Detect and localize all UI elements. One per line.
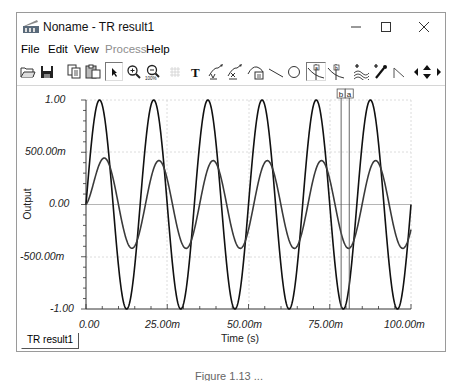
y-axis-title: Output	[21, 188, 33, 220]
tab-tr-result1[interactable]: TR result1	[21, 333, 79, 349]
y-tick-label: -500.00m	[20, 250, 64, 262]
svg-text:a: a	[347, 90, 352, 99]
y-tick-label: 500.00m	[25, 145, 66, 157]
chart-canvas[interactable]: b a	[17, 13, 447, 333]
app-window: Noname - TR result1 File Edit View Proce…	[16, 12, 446, 352]
tab-bar: TR result1	[17, 333, 445, 351]
y-tick-label: 0.00	[49, 197, 69, 209]
figure-caption: Figure 1.13 ...	[0, 370, 458, 381]
cursor-a[interactable]: a	[345, 89, 353, 309]
y-axis-ticks	[81, 100, 86, 309]
cursor-b[interactable]: b	[337, 89, 345, 309]
x-tick-label: 100.00m	[384, 318, 425, 330]
x-tick-label: 0.00	[79, 318, 99, 330]
x-tick-label: 75.00m	[308, 318, 343, 330]
svg-text:b: b	[339, 90, 344, 99]
y-tick-label: -1.00	[50, 302, 74, 314]
x-tick-label: 50.00m	[227, 318, 262, 330]
x-axis-ticks	[86, 304, 411, 309]
x-tick-label: 25.00m	[145, 318, 180, 330]
y-tick-label: 1.00	[45, 93, 65, 105]
